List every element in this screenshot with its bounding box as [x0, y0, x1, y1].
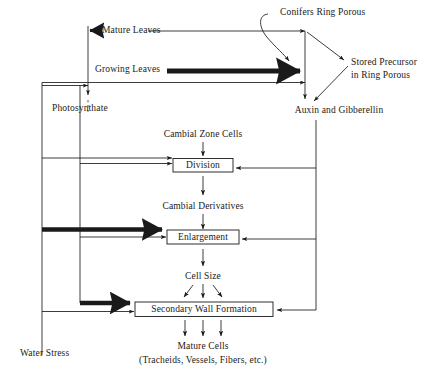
- label-mature-cells-detail: (Tracheids, Vessels, Fibers, etc.): [139, 355, 267, 366]
- label-water-stress: Water Stress: [20, 348, 69, 359]
- label-cambial-zone-cells: Cambial Zone Cells: [164, 129, 243, 140]
- cellsize-fan-arrow-left: [184, 285, 193, 297]
- stored-precursor-return-arrow: [314, 66, 348, 101]
- label-mature-leaves: Mature Leaves: [102, 25, 161, 36]
- label-photosynthate: Photosynthate: [52, 103, 108, 114]
- label-division: Division: [173, 159, 233, 173]
- label-mature-cells: Mature Cells: [177, 341, 228, 352]
- conifers-ring-porous-curved-arrow: [261, 14, 289, 61]
- label-auxin-and-gibberellin: Auxin and Gibberellin: [295, 105, 384, 116]
- label-cambial-derivatives: Cambial Derivatives: [162, 201, 243, 212]
- label-stored-precursor-line2: in Ring Porous: [351, 70, 410, 81]
- label-stored-precursor-line1: Stored Precursor: [351, 57, 417, 68]
- label-enlargement: Enlargement: [167, 230, 239, 244]
- label-secondary-wall-formation: Secondary Wall Formation: [135, 302, 273, 317]
- label-cell-size: Cell Size: [185, 271, 221, 282]
- flow-diagram: Mature Leaves Growing Leaves Conifers Ri…: [0, 0, 437, 384]
- label-growing-leaves: Growing Leaves: [95, 64, 160, 75]
- stored-precursor-outgoing-arrow: [307, 32, 344, 60]
- label-conifers-ring-porous: Conifers Ring Porous: [280, 7, 365, 18]
- cellsize-fan-arrow-right: [213, 285, 222, 297]
